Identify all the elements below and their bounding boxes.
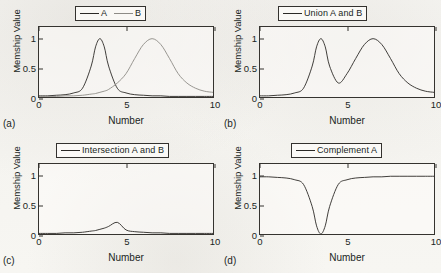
legend-line-swatch-icon <box>80 13 99 14</box>
x-tick-label: 5 <box>345 100 350 110</box>
x-tick-label: 5 <box>124 237 129 247</box>
plot-area-d: 00.510510 <box>259 163 435 235</box>
panel-letter-c: (c) <box>3 255 15 266</box>
data-series-line <box>39 39 213 97</box>
x-tick-mark <box>436 164 437 168</box>
data-series-line <box>39 39 213 97</box>
panel-a: AB Memship Value 00.510510 Number (a) <box>0 0 220 136</box>
curves-c <box>39 164 213 234</box>
y-tick-label: 0 <box>31 94 36 104</box>
x-tick-label: 10 <box>210 237 221 247</box>
legend-entry-a-1: B <box>114 9 141 18</box>
x-tick-label: 0 <box>257 100 262 110</box>
x-axis-label-b: Number <box>259 115 435 126</box>
panel-letter-d: (d) <box>224 255 236 266</box>
y-axis-label-a: Memship Value <box>12 0 22 84</box>
figure-root: AB Memship Value 00.510510 Number (a) Un… <box>0 0 441 273</box>
legend-panel-c: Intersection A and B <box>56 143 169 158</box>
legend-entry-d-0: Complement A <box>296 146 377 155</box>
legend-label: Intersection A and B <box>82 146 164 155</box>
y-tick-label: 1 <box>31 34 36 44</box>
legend-line-swatch-icon <box>283 13 302 14</box>
y-tick-label: 0 <box>252 94 257 104</box>
x-axis-label-a: Number <box>38 115 214 126</box>
panel-letter-b: (b) <box>224 118 236 129</box>
y-axis-label-b: Memship Value <box>233 0 243 84</box>
panel-d: Complement A Memship Value 00.510510 Num… <box>221 137 441 273</box>
legend-entry-a-0: A <box>80 9 107 18</box>
legend-panel-b: Union A and B <box>278 6 367 21</box>
x-tick-mark <box>436 27 437 31</box>
y-tick-label: 0.5 <box>23 64 36 74</box>
y-tick-label: 1 <box>252 171 257 181</box>
curves-a <box>39 27 213 97</box>
curves-d <box>260 164 434 234</box>
x-tick-label: 0 <box>36 237 41 247</box>
x-axis-label-c: Number <box>38 252 214 263</box>
x-tick-mark <box>215 27 216 31</box>
x-tick-label: 10 <box>431 100 441 110</box>
panel-b: Union A and B Memship Value 00.510510 Nu… <box>221 0 441 136</box>
plot-area-b: 00.510510 <box>259 26 435 98</box>
legend-line-swatch-icon <box>296 150 315 151</box>
y-axis-label-d: Memship Value <box>233 135 243 221</box>
legend-panel-d: Complement A <box>291 143 382 158</box>
data-series-line <box>39 222 213 233</box>
data-series-line <box>260 39 434 96</box>
y-tick-label: 1 <box>31 171 36 181</box>
plot-area-c: 00.510510 <box>38 163 214 235</box>
y-tick-label: 0.5 <box>244 201 257 211</box>
x-tick-label: 5 <box>345 237 350 247</box>
legend-entry-b-0: Union A and B <box>283 9 362 18</box>
y-tick-label: 0 <box>252 231 257 241</box>
legend-line-swatch-icon <box>61 150 80 151</box>
legend-label: Union A and B <box>304 9 362 18</box>
x-tick-label: 0 <box>257 237 262 247</box>
x-tick-label: 0 <box>36 100 41 110</box>
legend-label: Complement A <box>317 146 377 155</box>
y-tick-label: 0 <box>31 231 36 241</box>
x-tick-label: 5 <box>124 100 129 110</box>
x-axis-label-d: Number <box>259 252 435 263</box>
legend-label: A <box>101 9 107 18</box>
curves-b <box>260 27 434 97</box>
legend-label: B <box>135 9 141 18</box>
legend-line-swatch-icon <box>114 13 133 14</box>
panel-c: Intersection A and B Memship Value 00.51… <box>0 137 220 273</box>
panel-letter-a: (a) <box>3 118 15 129</box>
legend-panel-a: AB <box>75 6 146 21</box>
y-tick-label: 0.5 <box>23 201 36 211</box>
legend-entry-c-0: Intersection A and B <box>61 146 164 155</box>
plot-area-a: 00.510510 <box>38 26 214 98</box>
data-series-line <box>260 176 434 234</box>
x-tick-mark <box>215 164 216 168</box>
x-tick-label: 10 <box>210 100 221 110</box>
y-tick-label: 0.5 <box>244 64 257 74</box>
x-tick-label: 10 <box>431 237 441 247</box>
y-axis-label-c: Memship Value <box>12 135 22 221</box>
y-tick-label: 1 <box>252 34 257 44</box>
